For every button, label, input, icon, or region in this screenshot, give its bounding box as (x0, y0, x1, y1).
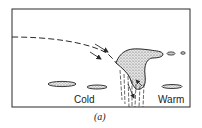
dashed-airflow-trajectory (12, 37, 117, 64)
cloud-middle (87, 85, 107, 89)
cold-label: Cold (74, 94, 95, 105)
flow-arrow-lower-icon (90, 52, 101, 59)
cloud-right (162, 85, 182, 89)
dashed-anvil-extension (167, 52, 185, 55)
warm-label: Warm (158, 94, 184, 105)
cloud-left (48, 81, 76, 86)
diagram-frame (12, 9, 190, 107)
figure-caption: (a) (94, 111, 106, 123)
lenticular-clouds (48, 81, 182, 89)
weather-front-diagram: Cold Warm (a) (0, 0, 202, 128)
